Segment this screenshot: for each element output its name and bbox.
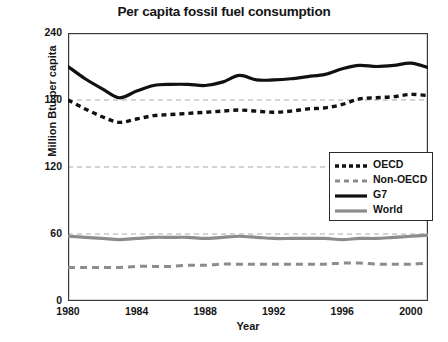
- legend-label: World: [373, 203, 403, 215]
- series-line-non-oecd: [68, 263, 428, 268]
- chart-legend: OECDNon-OECDG7World: [329, 152, 433, 221]
- x-tick-label: 1992: [244, 305, 304, 317]
- legend-label: Non-OECD: [373, 173, 427, 185]
- series-line-g7: [68, 63, 428, 98]
- legend-label: G7: [373, 188, 387, 200]
- x-tick-label: 1988: [175, 305, 235, 317]
- y-tick-label: 120: [14, 160, 62, 172]
- legend-label: OECD: [373, 158, 403, 170]
- chart-title: Per capita fossil fuel consumption: [0, 4, 448, 19]
- series-line-world: [68, 235, 428, 239]
- legend-item-oecd[interactable]: OECD: [334, 156, 428, 171]
- x-axis-title: Year: [68, 320, 428, 332]
- x-tick-label: 2000: [381, 305, 441, 317]
- legend-swatch-icon: [334, 188, 368, 200]
- y-tick-label: 180: [14, 93, 62, 105]
- x-tick-label: 1980: [38, 305, 98, 317]
- x-tick-label: 1984: [107, 305, 167, 317]
- chart-container: Per capita fossil fuel consumption Milli…: [0, 0, 448, 342]
- legend-swatch-icon: [334, 158, 368, 170]
- y-tick-label: 60: [14, 227, 62, 239]
- y-tick-label: 240: [14, 26, 62, 38]
- legend-swatch-icon: [334, 203, 368, 215]
- x-tick-label: 1996: [312, 305, 372, 317]
- y-axis-tick-labels: 060120180240: [8, 33, 62, 301]
- legend-item-world[interactable]: World: [334, 201, 428, 216]
- legend-swatch-icon: [334, 173, 368, 185]
- legend-item-non-oecd[interactable]: Non-OECD: [334, 171, 428, 186]
- legend-item-g7[interactable]: G7: [334, 186, 428, 201]
